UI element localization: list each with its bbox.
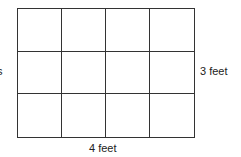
grid-cell	[18, 52, 62, 95]
grid-cell	[62, 94, 106, 137]
grid-cell	[150, 94, 194, 137]
grid-cell	[62, 9, 106, 52]
rectangle-grid	[17, 8, 195, 138]
height-label: 3 feet	[200, 65, 228, 77]
grid-cell	[150, 52, 194, 95]
grid-cell	[106, 52, 150, 95]
grid-cell	[62, 52, 106, 95]
grid-cell	[18, 94, 62, 137]
width-label: 4 feet	[89, 142, 117, 154]
grid-cell	[18, 9, 62, 52]
grid-cell	[106, 94, 150, 137]
grid-cell	[106, 9, 150, 52]
cut-off-text-fragment: s	[0, 65, 3, 77]
grid-cell	[150, 9, 194, 52]
